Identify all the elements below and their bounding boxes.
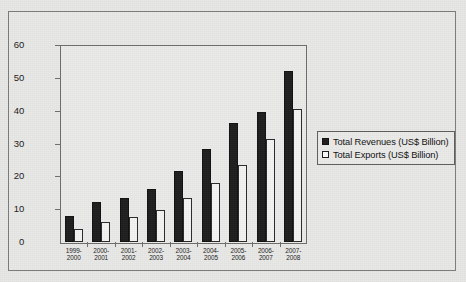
legend-label-revenues: Total Revenues (US$ Billion) bbox=[333, 137, 449, 147]
chart-plot-container: 0102030405060 1999-20002000-20012001-200… bbox=[28, 31, 310, 253]
x-axis-tick-mark bbox=[170, 242, 171, 247]
x-axis-tick-label-line: 2008 bbox=[278, 254, 308, 261]
x-axis-tick-label-line: 2002 bbox=[114, 254, 144, 261]
x-axis-tick-label: 2006-2007 bbox=[251, 247, 281, 262]
x-axis-tick-label-line: 2006- bbox=[251, 247, 281, 254]
x-axis-tick-label-line: 2005 bbox=[196, 254, 226, 261]
legend-item-revenues[interactable]: Total Revenues (US$ Billion) bbox=[322, 135, 449, 148]
bar-total-exports[interactable] bbox=[266, 139, 275, 242]
bar-total-exports[interactable] bbox=[211, 183, 220, 242]
x-axis-tick-label-line: 2001 bbox=[86, 254, 116, 261]
x-axis-tick-label-line: 2000 bbox=[59, 254, 89, 261]
bar-total-revenues[interactable] bbox=[65, 216, 74, 242]
bar-group[interactable] bbox=[60, 45, 87, 242]
x-axis-tick-label-line: 2001- bbox=[114, 247, 144, 254]
x-axis-tick-label: 2002-2003 bbox=[141, 247, 171, 262]
bar-total-exports[interactable] bbox=[129, 217, 138, 242]
x-axis-tick-label: 2003-2004 bbox=[169, 247, 199, 262]
bar-total-revenues[interactable] bbox=[174, 171, 183, 242]
x-axis-tick-mark bbox=[115, 242, 116, 247]
chart-legend: Total Revenues (US$ Billion) Total Expor… bbox=[317, 131, 455, 165]
y-axis-tick-label: 60 bbox=[0, 40, 24, 49]
bar-group[interactable] bbox=[197, 45, 224, 242]
bar-group[interactable] bbox=[280, 45, 307, 242]
y-axis-tick-label: 30 bbox=[0, 139, 24, 148]
x-axis-tick-label-line: 2004- bbox=[196, 247, 226, 254]
bar-group[interactable] bbox=[87, 45, 114, 242]
bar-total-exports[interactable] bbox=[156, 210, 165, 243]
y-axis-tick-label: 0 bbox=[0, 237, 24, 246]
x-axis-tick-label: 2007-2008 bbox=[278, 247, 308, 262]
bar-total-exports[interactable] bbox=[238, 165, 247, 242]
hollow-square-icon bbox=[322, 151, 329, 158]
bar-total-revenues[interactable] bbox=[202, 149, 211, 242]
x-axis-tick-label-line: 2000- bbox=[86, 247, 116, 254]
x-axis-tick-label-line: 2006 bbox=[223, 254, 253, 261]
filled-square-icon bbox=[322, 138, 329, 145]
legend-item-exports[interactable]: Total Exports (US$ Billion) bbox=[322, 148, 449, 161]
bar-total-exports[interactable] bbox=[74, 229, 83, 242]
bar-total-revenues[interactable] bbox=[229, 123, 238, 242]
x-axis-tick-mark bbox=[197, 242, 198, 247]
x-axis-tick-label: 2005-2006 bbox=[223, 247, 253, 262]
bar-total-exports[interactable] bbox=[183, 198, 192, 242]
x-axis-tick-label-line: 2003- bbox=[169, 247, 199, 254]
legend-label-exports: Total Exports (US$ Billion) bbox=[333, 150, 438, 160]
chart-outer-frame: 0102030405060 1999-20002000-20012001-200… bbox=[8, 11, 456, 271]
x-axis-tick-label-line: 2005- bbox=[223, 247, 253, 254]
x-axis-tick-mark bbox=[280, 242, 281, 247]
x-axis-tick-label-line: 1999- bbox=[59, 247, 89, 254]
x-axis-tick-label-line: 2007 bbox=[251, 254, 281, 261]
x-axis-tick-mark bbox=[87, 242, 88, 247]
bar-group[interactable] bbox=[142, 45, 169, 242]
bar-total-exports[interactable] bbox=[101, 222, 110, 242]
x-axis-tick-label: 2000-2001 bbox=[86, 247, 116, 262]
bar-group[interactable] bbox=[252, 45, 279, 242]
bar-group[interactable] bbox=[170, 45, 197, 242]
x-axis-tick-label-line: 2007- bbox=[278, 247, 308, 254]
bar-total-revenues[interactable] bbox=[120, 198, 129, 242]
bar-total-revenues[interactable] bbox=[257, 112, 266, 242]
x-axis-tick-label-line: 2004 bbox=[169, 254, 199, 261]
bar-total-exports[interactable] bbox=[293, 109, 302, 242]
y-axis-tick-label: 40 bbox=[0, 106, 24, 115]
x-axis-tick-label: 2001-2002 bbox=[114, 247, 144, 262]
bar-total-revenues[interactable] bbox=[92, 202, 101, 242]
x-axis-tick-mark bbox=[225, 242, 226, 247]
bar-group[interactable] bbox=[115, 45, 142, 242]
x-axis-tick-label-line: 2002- bbox=[141, 247, 171, 254]
bar-total-revenues[interactable] bbox=[284, 71, 293, 242]
x-axis-tick-label-line: 2003 bbox=[141, 254, 171, 261]
y-axis-tick-label: 10 bbox=[0, 204, 24, 213]
x-axis-tick-mark bbox=[142, 242, 143, 247]
y-axis-tick-label: 50 bbox=[0, 73, 24, 82]
bar-group[interactable] bbox=[225, 45, 252, 242]
x-axis-tick-mark bbox=[252, 242, 253, 247]
x-axis-tick-label: 1999-2000 bbox=[59, 247, 89, 262]
bar-total-revenues[interactable] bbox=[147, 189, 156, 242]
x-axis-tick-label: 2004-2005 bbox=[196, 247, 226, 262]
y-axis-tick-label: 20 bbox=[0, 171, 24, 180]
